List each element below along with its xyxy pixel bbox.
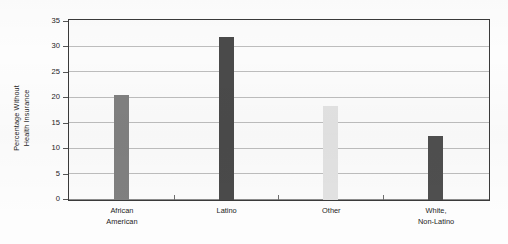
x-axis-label-2-line-0: Other — [279, 206, 384, 217]
x-axis-tick-mark-1 — [278, 195, 279, 200]
y-axis-title-line-1: Percentage Without — [12, 38, 22, 198]
x-axis-labels: AfricanAmericanLatinoOtherWhite,Non-Lati… — [68, 206, 490, 242]
y-axis-tick-mark-10 — [63, 148, 68, 149]
y-axis-tick-mark-15 — [63, 123, 68, 124]
bars-layer — [69, 20, 489, 200]
y-axis-tick-label-0: 0 — [36, 195, 60, 203]
x-axis-label-1: Latino — [174, 206, 279, 217]
x-axis-label-2: Other — [279, 206, 384, 217]
x-axis-label-0-line-1: American — [70, 217, 175, 228]
y-axis-tick-mark-0 — [63, 199, 68, 200]
y-axis-tick-label-35: 35 — [36, 17, 60, 25]
y-axis-tick-labels: 05101520253035 — [36, 0, 60, 244]
y-axis-tick-label-30: 30 — [36, 42, 60, 50]
x-axis-label-0-line-0: African — [70, 206, 175, 217]
y-axis-tick-label-25: 25 — [36, 68, 60, 76]
x-axis-tick-mark-2 — [383, 195, 384, 200]
y-axis-tick-mark-25 — [63, 72, 68, 73]
y-axis-tick-label-10: 10 — [36, 144, 60, 152]
y-axis-tick-label-20: 20 — [36, 93, 60, 101]
x-axis-label-0: AfricanAmerican — [70, 206, 175, 227]
y-axis-tick-label-15: 15 — [36, 119, 60, 127]
y-axis-tick-mark-20 — [63, 97, 68, 98]
x-axis-label-3-line-1: Non-Latino — [384, 217, 489, 228]
plot-area — [68, 19, 490, 201]
bar-0 — [114, 95, 129, 200]
bar-2 — [323, 106, 338, 201]
bar-chart-figure: Percentage Without Health Insurance 0510… — [0, 0, 508, 244]
y-axis-tick-label-5: 5 — [36, 170, 60, 178]
x-axis-label-3-line-0: White, — [384, 206, 489, 217]
y-axis-tick-mark-30 — [63, 46, 68, 47]
x-axis-tick-mark-0 — [174, 195, 175, 200]
y-axis-title: Percentage Without Health Insurance — [12, 0, 38, 38]
x-axis-label-3: White,Non-Latino — [384, 206, 489, 227]
x-axis-label-1-line-0: Latino — [174, 206, 279, 217]
y-axis-tick-mark-35 — [63, 21, 68, 22]
bar-1 — [219, 37, 234, 200]
y-axis-title-line-2: Health Insurance — [22, 38, 32, 198]
bar-3 — [428, 136, 443, 200]
y-axis-tick-mark-5 — [63, 174, 68, 175]
